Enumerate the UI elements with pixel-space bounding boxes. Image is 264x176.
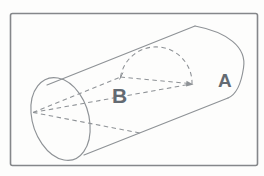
figure-panel: A B	[0, 0, 264, 176]
label-a: A	[218, 70, 232, 91]
label-b: B	[112, 84, 127, 107]
cylinder-diagram: A B	[0, 0, 264, 176]
